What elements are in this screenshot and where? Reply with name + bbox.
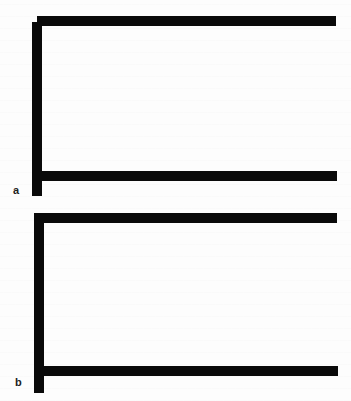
panel-a-bottom-bar (42, 171, 337, 181)
panel-b-vertical-bar (34, 213, 44, 393)
paper-texture (0, 0, 351, 401)
panel-b-top-bar (34, 213, 337, 223)
panel-b-label: b (15, 377, 22, 388)
panel-a-label: a (13, 185, 19, 196)
panel-b-bottom-bar (44, 366, 338, 376)
panel-a-top-bar (37, 16, 336, 26)
panel-a-vertical-bar (32, 22, 42, 196)
